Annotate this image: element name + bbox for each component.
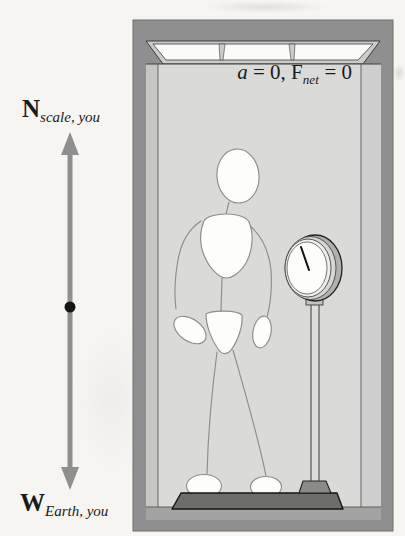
down-arrowhead-icon bbox=[61, 467, 79, 490]
physics-figure: a = 0, Fnet = 0 Nscale, you WEarth, you bbox=[0, 0, 405, 536]
normal-force-symbol: N bbox=[22, 95, 40, 122]
scale-base bbox=[299, 481, 331, 493]
acceleration-value: = 0, bbox=[248, 60, 291, 84]
scale-dial-face bbox=[287, 242, 327, 294]
net-force-value: = 0 bbox=[319, 60, 352, 84]
weight-force-subscript: Earth, you bbox=[45, 503, 108, 519]
scale-platform bbox=[172, 493, 343, 509]
weight-force-symbol: W bbox=[20, 489, 45, 516]
acceleration-symbol: a bbox=[237, 60, 248, 84]
net-force-subscript: net bbox=[303, 72, 319, 87]
normal-force-label: Nscale, you bbox=[22, 95, 100, 125]
net-force-symbol: F bbox=[291, 60, 303, 84]
ceiling-light-panel bbox=[153, 44, 373, 60]
left-side-wall bbox=[146, 64, 158, 507]
right-side-wall bbox=[361, 64, 381, 507]
force-arrow bbox=[61, 132, 79, 490]
normal-force-subscript: scale, you bbox=[40, 109, 100, 125]
elevator bbox=[133, 20, 393, 531]
equation-label: a = 0, Fnet = 0 bbox=[178, 60, 352, 88]
up-arrowhead-icon bbox=[61, 132, 79, 155]
weight-force-label: WEarth, you bbox=[20, 489, 108, 519]
center-of-mass-dot bbox=[65, 302, 76, 313]
scale-post bbox=[311, 299, 319, 483]
